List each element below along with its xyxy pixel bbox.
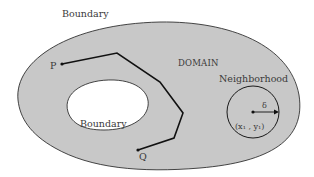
domain-label: DOMAIN [178, 58, 219, 68]
point-q-label: Q [139, 151, 147, 162]
point-p-label: P [50, 60, 57, 71]
outer-boundary-label: Boundary [62, 8, 109, 19]
neighborhood-label: Neighborhood [219, 73, 288, 84]
point-p-dot [60, 62, 63, 65]
domain-diagram: Boundary Boundary DOMAIN Neighborhood P … [0, 0, 314, 177]
domain-region [18, 22, 300, 170]
inner-boundary-text: Boundary [80, 118, 127, 129]
radius-label: δ [262, 101, 267, 110]
center-coordinates-label: (x₁ , y₁) [235, 122, 264, 131]
